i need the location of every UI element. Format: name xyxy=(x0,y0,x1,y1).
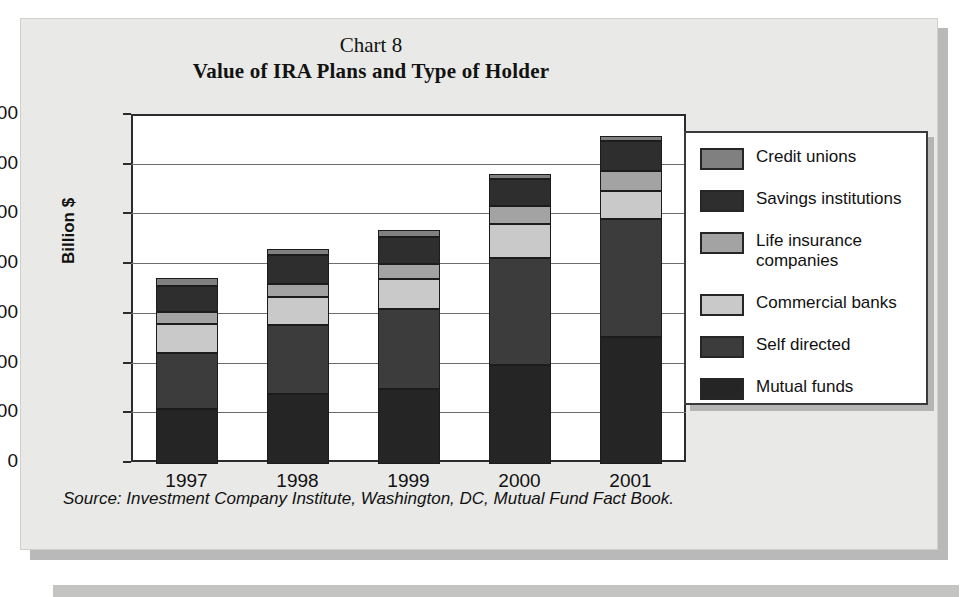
bar-segment[interactable] xyxy=(378,279,440,309)
bar-segment[interactable] xyxy=(600,219,662,337)
legend-swatch-icon xyxy=(700,336,744,358)
legend-item[interactable]: Life insurance companies xyxy=(700,231,862,271)
bar-segment[interactable] xyxy=(156,353,218,409)
y-tick-mark xyxy=(123,262,131,264)
legend-label: Mutual funds xyxy=(756,377,853,397)
bar-1999[interactable] xyxy=(378,116,440,464)
bar-segment[interactable] xyxy=(489,258,551,365)
bar-segment[interactable] xyxy=(489,224,551,258)
bar-segment[interactable] xyxy=(267,284,329,298)
y-tick-mark xyxy=(123,163,131,165)
bar-segment[interactable] xyxy=(489,365,551,464)
y-tick-mark xyxy=(123,113,131,115)
bar-segment[interactable] xyxy=(600,171,662,191)
y-tick-label: 0 xyxy=(0,450,18,472)
bar-segment[interactable] xyxy=(378,309,440,390)
bar-segment[interactable] xyxy=(378,230,440,236)
y-tick-mark xyxy=(123,411,131,413)
bar-segment[interactable] xyxy=(378,237,440,264)
legend-swatch-icon xyxy=(700,294,744,316)
bar-1998[interactable] xyxy=(267,116,329,464)
y-tick-mark xyxy=(123,362,131,364)
bar-2000[interactable] xyxy=(489,116,551,464)
y-tick-label: 1000 xyxy=(0,201,18,223)
y-tick-label: 200 xyxy=(0,400,18,422)
legend: Credit unionsSavings institutionsLife in… xyxy=(684,131,928,405)
y-tick-mark xyxy=(123,212,131,214)
bar-segment[interactable] xyxy=(600,141,662,171)
legend-swatch-icon xyxy=(700,148,744,170)
legend-label: Savings institutions xyxy=(756,189,902,209)
title-group: Chart 8 Value of IRA Plans and Type of H… xyxy=(21,33,721,84)
y-tick-label: 600 xyxy=(0,301,18,323)
bar-segment[interactable] xyxy=(489,206,551,225)
bar-segment[interactable] xyxy=(267,249,329,255)
legend-label: Self directed xyxy=(756,335,851,355)
y-tick-label: 1200 xyxy=(0,152,18,174)
chart-number: Chart 8 xyxy=(21,33,721,58)
bar-segment[interactable] xyxy=(378,389,440,464)
legend-swatch-icon xyxy=(700,190,744,212)
legend-swatch-icon xyxy=(700,232,744,254)
legend-item[interactable]: Mutual funds xyxy=(700,377,853,400)
bar-2001[interactable] xyxy=(600,116,662,464)
bar-1997[interactable] xyxy=(156,116,218,464)
bar-segment[interactable] xyxy=(489,179,551,205)
bar-segment[interactable] xyxy=(267,325,329,395)
bar-segment[interactable] xyxy=(267,394,329,464)
page-title: Value of IRA Plans and Type of Holder xyxy=(21,58,721,84)
legend-item[interactable]: Savings institutions xyxy=(700,189,902,212)
y-tick-label: 800 xyxy=(0,251,18,273)
bar-segment[interactable] xyxy=(600,136,662,141)
bar-segment[interactable] xyxy=(156,324,218,354)
bar-segment[interactable] xyxy=(600,191,662,220)
legend-item[interactable]: Self directed xyxy=(700,335,851,358)
legend-label: Commercial banks xyxy=(756,293,897,313)
legend-label: Life insurance companies xyxy=(756,231,862,271)
bar-segment[interactable] xyxy=(267,297,329,324)
source-note: Source: Investment Company Institute, Wa… xyxy=(63,489,674,509)
figure-page: Chart 8 Value of IRA Plans and Type of H… xyxy=(0,0,964,597)
legend-swatch-icon xyxy=(700,378,744,400)
y-tick-mark xyxy=(123,461,131,463)
bar-segment[interactable] xyxy=(489,174,551,179)
y-tick-label: 1400 xyxy=(0,102,18,124)
y-tick-label: 400 xyxy=(0,351,18,373)
bar-segment[interactable] xyxy=(378,264,440,279)
bar-segment[interactable] xyxy=(156,278,218,287)
bar-segment[interactable] xyxy=(156,409,218,464)
legend-item[interactable]: Credit unions xyxy=(700,147,856,170)
page-bottom-strip xyxy=(53,585,959,597)
legend-label: Credit unions xyxy=(756,147,856,167)
legend-item[interactable]: Commercial banks xyxy=(700,293,897,316)
plot-wrapper: Billion $ 0200400600800100012001400 1997… xyxy=(131,114,686,464)
bar-segment[interactable] xyxy=(267,255,329,284)
bar-segment[interactable] xyxy=(600,337,662,464)
figure-panel: Chart 8 Value of IRA Plans and Type of H… xyxy=(20,18,938,550)
bar-segment[interactable] xyxy=(156,286,218,312)
y-tick-mark xyxy=(123,312,131,314)
y-axis-label: Billion $ xyxy=(59,198,79,264)
bar-segment[interactable] xyxy=(156,312,218,323)
